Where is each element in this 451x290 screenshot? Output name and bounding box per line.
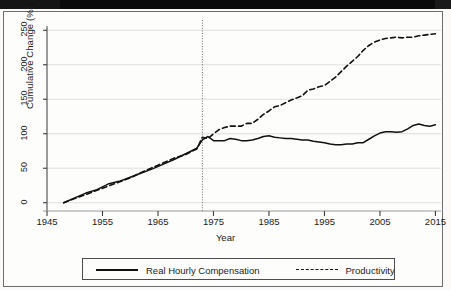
- legend-label-real-hourly-compensation: Real Hourly Compensation: [146, 265, 260, 276]
- legend: Real Hourly Compensation Productivity: [82, 258, 395, 280]
- y-tick-label-100: 100: [19, 120, 29, 146]
- y-tick-label-150: 150: [19, 85, 29, 111]
- legend-item-productivity: Productivity: [296, 259, 395, 281]
- legend-label-productivity: Productivity: [346, 265, 395, 276]
- series-line-productivity: [64, 34, 436, 203]
- legend-solid-line-icon: [96, 265, 138, 275]
- chart-svg: [0, 0, 451, 290]
- legend-dashed-line-icon: [296, 265, 338, 275]
- y-tick-label-50: 50: [19, 154, 29, 180]
- data-series-layer: [64, 34, 436, 203]
- axis-lines: [43, 26, 441, 211]
- y-tick-label-250: 250: [19, 16, 29, 42]
- x-tick-label-1965: 1965: [138, 216, 178, 227]
- x-tick-label-2015: 2015: [415, 216, 451, 227]
- x-tick-label-2005: 2005: [360, 216, 400, 227]
- x-tick-label-1985: 1985: [249, 216, 289, 227]
- x-axis-label: Year: [0, 232, 451, 243]
- x-tick-label-1955: 1955: [82, 216, 122, 227]
- x-tick-label-1945: 1945: [27, 216, 67, 227]
- gridlines: [47, 30, 441, 202]
- legend-item-real-hourly-compensation: Real Hourly Compensation: [96, 259, 260, 281]
- plot-area: Cumulative Change (%) Year 0501001502002…: [0, 0, 451, 290]
- y-tick-label-200: 200: [19, 51, 29, 77]
- x-tick-label-1975: 1975: [193, 216, 233, 227]
- series-line-real-hourly-compensation: [64, 124, 436, 203]
- chart-figure: Cumulative Change (%) Year 0501001502002…: [0, 0, 451, 290]
- y-tick-label-0: 0: [19, 189, 29, 215]
- x-tick-label-1995: 1995: [304, 216, 344, 227]
